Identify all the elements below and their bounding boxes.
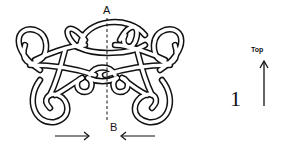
- orientation-top-label: Top: [251, 46, 263, 53]
- knot-illustration: .rope-out { fill: none; stroke: #111; st…: [0, 0, 282, 150]
- up-arrow-icon: [260, 61, 268, 106]
- knot-diagram: .rope-out { fill: none; stroke: #111; st…: [0, 0, 282, 150]
- point-a-label: A: [103, 5, 110, 16]
- arrow-left-icon: [121, 132, 155, 140]
- knot-rope: [19, 22, 182, 122]
- arrow-right-icon: [55, 132, 89, 140]
- step-number: 1: [230, 88, 241, 110]
- point-b-label: B: [110, 122, 117, 133]
